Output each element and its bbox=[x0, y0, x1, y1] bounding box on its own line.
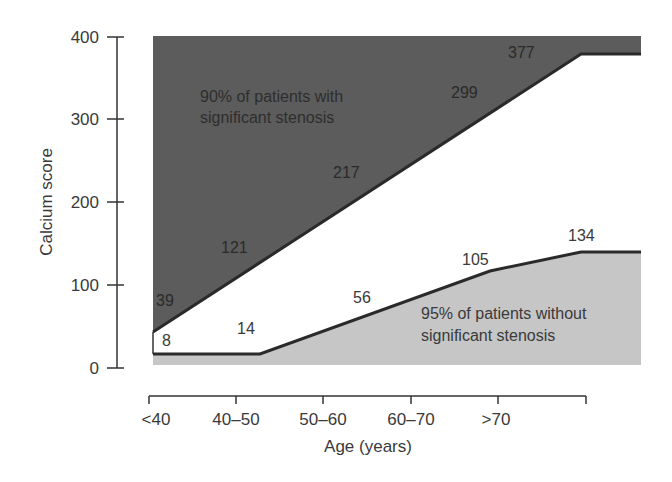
svg-text:377: 377 bbox=[508, 44, 535, 61]
y-axis bbox=[107, 37, 124, 368]
svg-text:400: 400 bbox=[71, 28, 99, 47]
svg-text:60–70: 60–70 bbox=[387, 410, 434, 429]
svg-text:50–60: 50–60 bbox=[299, 410, 346, 429]
svg-text:95% of patients without: 95% of patients without bbox=[421, 305, 587, 322]
svg-text:105: 105 bbox=[462, 251, 489, 268]
x-axis bbox=[149, 396, 586, 404]
svg-text:significant stenosis: significant stenosis bbox=[421, 327, 555, 344]
svg-text:299: 299 bbox=[451, 84, 478, 101]
svg-text:>70: >70 bbox=[482, 410, 511, 429]
svg-text:90% of patients with: 90% of patients with bbox=[200, 88, 343, 105]
x-tick-labels: <40 40–50 50–60 60–70 >70 bbox=[142, 410, 511, 429]
svg-text:200: 200 bbox=[71, 193, 99, 212]
calcium-score-chart: 400 300 200 100 0 Calcium score <40 40–5… bbox=[0, 0, 672, 482]
y-axis-label: Calcium score bbox=[37, 148, 56, 256]
x-axis-label: Age (years) bbox=[324, 437, 412, 456]
svg-text:300: 300 bbox=[71, 110, 99, 129]
svg-text:8: 8 bbox=[162, 332, 171, 349]
svg-text:40–50: 40–50 bbox=[212, 410, 259, 429]
svg-text:0: 0 bbox=[90, 359, 99, 378]
svg-text:<40: <40 bbox=[142, 410, 171, 429]
svg-text:56: 56 bbox=[353, 289, 371, 306]
svg-text:14: 14 bbox=[237, 320, 255, 337]
svg-text:significant stenosis: significant stenosis bbox=[200, 109, 334, 126]
svg-text:39: 39 bbox=[156, 292, 174, 309]
svg-text:134: 134 bbox=[568, 227, 595, 244]
svg-text:121: 121 bbox=[221, 239, 248, 256]
svg-text:217: 217 bbox=[333, 164, 360, 181]
y-tick-labels: 400 300 200 100 0 bbox=[71, 28, 99, 378]
svg-text:100: 100 bbox=[71, 276, 99, 295]
